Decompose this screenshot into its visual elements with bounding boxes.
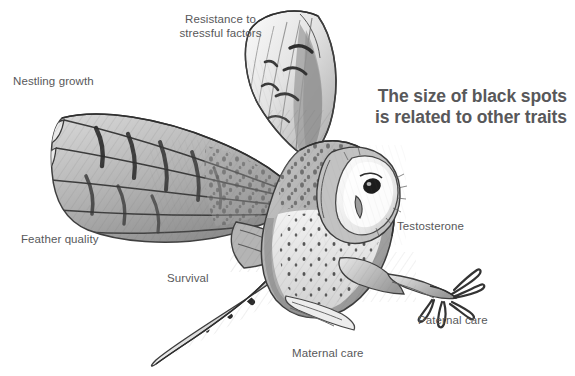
label-feather-quality: Feather quality — [21, 232, 99, 246]
label-maternal-care: Maternal care — [292, 346, 364, 360]
owl-illustration — [0, 0, 575, 376]
page-title: The size of black spots is related to ot… — [375, 86, 567, 128]
label-paternal-care: Paternal care — [418, 313, 488, 327]
label-resistance-to-stressful-factors: Resistance to stressful factors — [163, 12, 278, 40]
figure-canvas: The size of black spots is related to ot… — [0, 0, 575, 376]
label-survival: Survival — [167, 271, 209, 285]
label-testosterone: Testosterone — [397, 219, 464, 233]
label-nestling-growth: Nestling growth — [13, 74, 94, 88]
owl-head — [316, 145, 407, 245]
